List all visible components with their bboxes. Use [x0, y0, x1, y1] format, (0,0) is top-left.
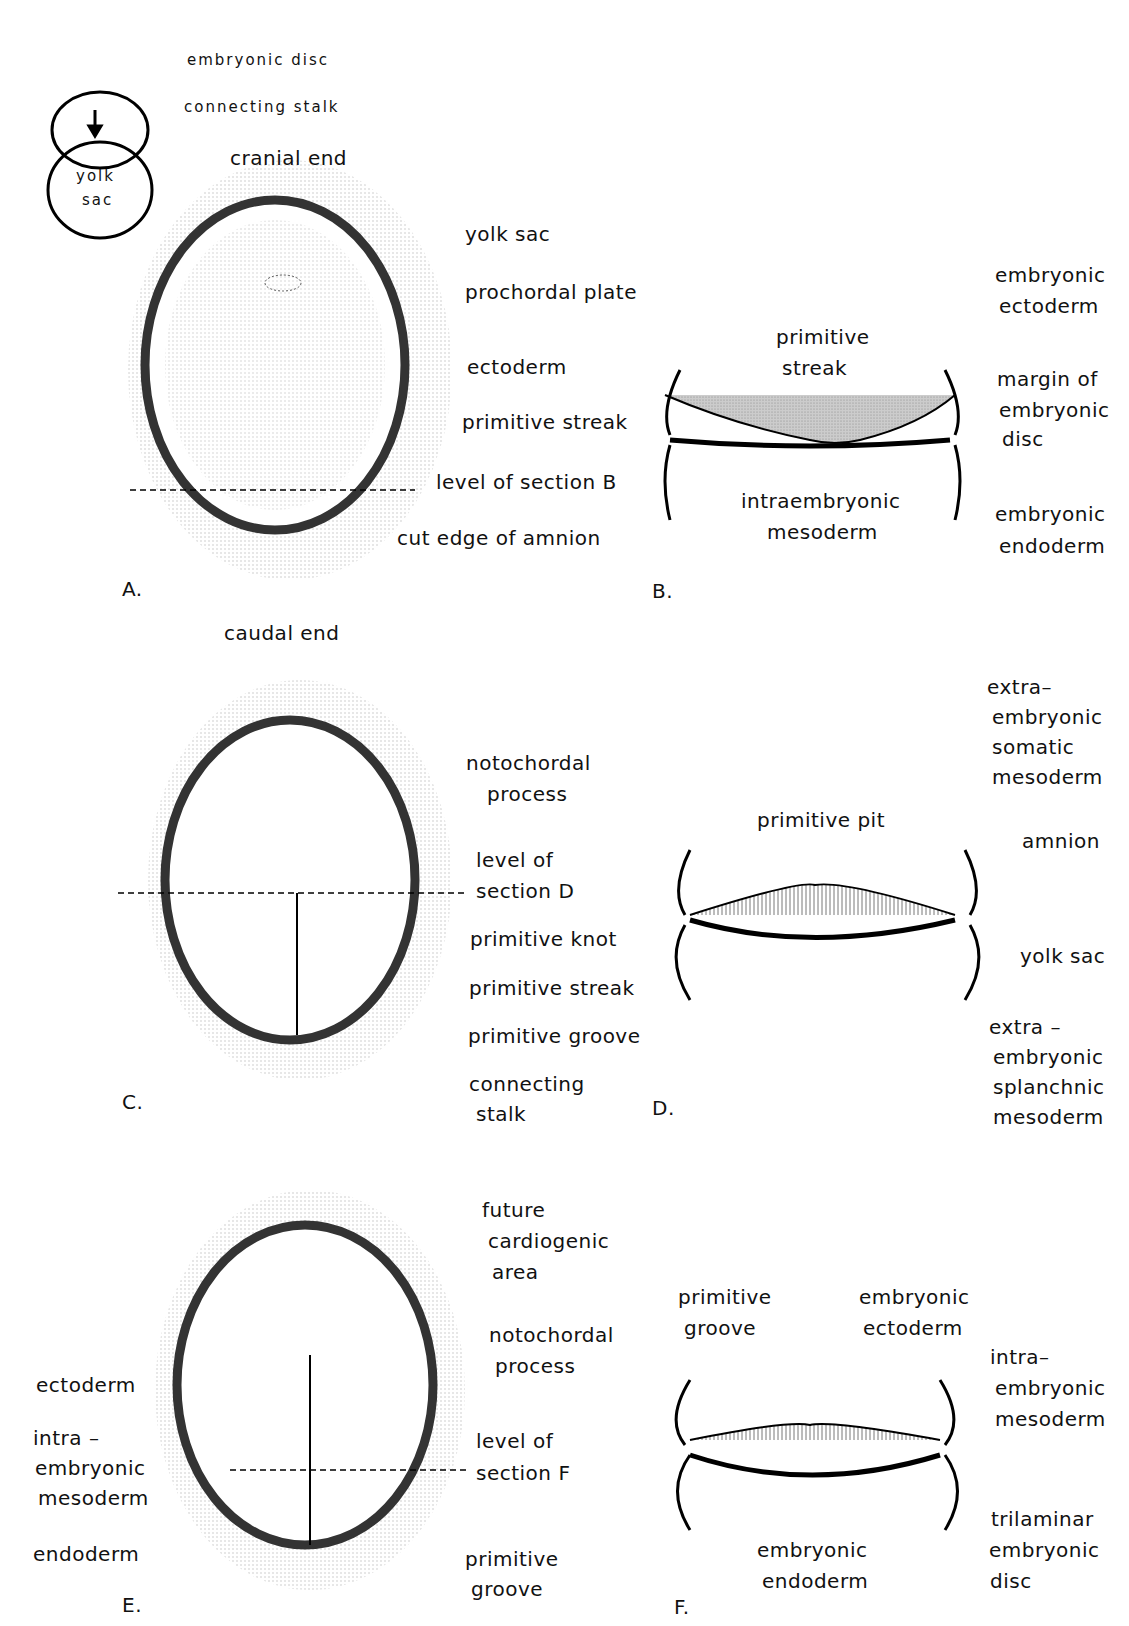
- label-intra-1: intra–: [990, 1342, 1050, 1372]
- label-level-1: level of: [476, 1426, 553, 1456]
- label-ectoderm: ectoderm: [36, 1370, 136, 1400]
- label-level-2: section D: [476, 876, 574, 906]
- label-margin-1: margin of: [997, 364, 1098, 394]
- label-splanchnic-2: embryonic: [993, 1042, 1104, 1072]
- label-groove-1: primitive: [678, 1282, 772, 1312]
- panel-a-drawing: [128, 160, 452, 580]
- label-trilaminar-3: disc: [990, 1566, 1032, 1596]
- label-notochordal-2: process: [495, 1351, 575, 1381]
- label-embryonic-ectoderm-1: embryonic: [995, 260, 1106, 290]
- label-intraembryonic-1: intraembryonic: [741, 486, 901, 516]
- label-amnion: amnion: [1022, 826, 1100, 856]
- label-splanchnic-4: mesoderm: [993, 1102, 1104, 1132]
- label-embryonic-endoderm-1: embryonic: [995, 499, 1106, 529]
- label-primitive-streak-1: primitive: [776, 322, 870, 352]
- label-somatic-2: embryonic: [992, 702, 1103, 732]
- label-cardiogenic-2: cardiogenic: [488, 1226, 609, 1256]
- panel-d-drawing: [676, 850, 979, 1000]
- label-endoderm: endoderm: [33, 1539, 139, 1569]
- label-intraembryonic-2: mesoderm: [767, 517, 878, 547]
- label-primitive-streak: primitive streak: [469, 973, 635, 1003]
- label-groove-2: groove: [471, 1574, 543, 1604]
- label-primitive-pit: primitive pit: [757, 805, 885, 835]
- inset-label-connecting-stalk: connecting stalk: [184, 97, 340, 117]
- label-ectoderm-1: embryonic: [859, 1282, 970, 1312]
- panel-f-drawing: [676, 1380, 957, 1530]
- panel-e-drawing: [155, 1190, 470, 1590]
- label-margin-3: disc: [1002, 424, 1044, 454]
- label-cut-edge-of-amnion: cut edge of amnion: [397, 523, 601, 553]
- label-yolk-sac: yolk sac: [1020, 941, 1105, 971]
- inset-label-yolk: yolk: [76, 166, 115, 186]
- label-embryonic-endoderm-2: endoderm: [999, 531, 1105, 561]
- label-connecting-1: connecting: [469, 1069, 585, 1099]
- label-caudal-end: caudal end: [224, 618, 339, 648]
- label-primitive-knot: primitive knot: [470, 924, 617, 954]
- label-intra-3: mesoderm: [38, 1483, 149, 1513]
- label-somatic-3: somatic: [992, 732, 1074, 762]
- label-yolk-sac: yolk sac: [465, 219, 550, 249]
- label-splanchnic-1: extra –: [989, 1012, 1061, 1042]
- label-intra-2: embryonic: [995, 1373, 1106, 1403]
- label-trilaminar-2: embryonic: [989, 1535, 1100, 1565]
- label-somatic-1: extra–: [987, 672, 1052, 702]
- label-primitive-groove: primitive groove: [468, 1021, 641, 1051]
- label-splanchnic-3: splanchnic: [993, 1072, 1105, 1102]
- label-intra-3: mesoderm: [995, 1404, 1106, 1434]
- inset-label-sac: sac: [82, 190, 113, 210]
- label-notochordal-1: notochordal: [466, 748, 591, 778]
- label-endoderm-2: endoderm: [762, 1566, 868, 1596]
- label-margin-2: embryonic: [999, 395, 1110, 425]
- label-level-of-section-b: level of section B: [436, 467, 617, 497]
- label-somatic-4: mesoderm: [992, 762, 1103, 792]
- label-cranial-end: cranial end: [230, 143, 347, 173]
- diagram-artwork: [0, 0, 1129, 1626]
- label-cardiogenic-3: area: [492, 1257, 539, 1287]
- panel-letter-b: B.: [652, 576, 673, 606]
- label-groove-1: primitive: [465, 1544, 559, 1574]
- inset-label-embryonic-disc: embryonic disc: [187, 50, 329, 70]
- panel-letter-d: D.: [652, 1093, 675, 1123]
- label-intra-2: embryonic: [35, 1453, 146, 1483]
- label-level-2: section F: [476, 1458, 570, 1488]
- inset-drawing: [48, 92, 152, 238]
- label-embryonic-ectoderm-2: ectoderm: [999, 291, 1099, 321]
- panel-letter-c: C.: [122, 1087, 143, 1117]
- label-notochordal-2: process: [487, 779, 567, 809]
- label-groove-2: groove: [684, 1313, 756, 1343]
- label-notochordal-1: notochordal: [489, 1320, 614, 1350]
- label-ectoderm: ectoderm: [467, 352, 567, 382]
- label-endoderm-1: embryonic: [757, 1535, 868, 1565]
- panel-letter-f: F.: [674, 1592, 690, 1622]
- label-level-1: level of: [476, 845, 553, 875]
- label-ectoderm-2: ectoderm: [863, 1313, 963, 1343]
- label-cardiogenic-1: future: [482, 1195, 545, 1225]
- label-intra-1: intra –: [33, 1423, 99, 1453]
- label-primitive-streak: primitive streak: [462, 407, 628, 437]
- label-connecting-2: stalk: [476, 1099, 526, 1129]
- label-trilaminar-1: trilaminar: [991, 1504, 1094, 1534]
- panel-c-drawing: [118, 680, 465, 1080]
- panel-letter-e: E.: [122, 1590, 142, 1620]
- label-prochordal-plate: prochordal plate: [465, 277, 637, 307]
- label-primitive-streak-2: streak: [782, 353, 847, 383]
- panel-letter-a: A.: [122, 574, 143, 604]
